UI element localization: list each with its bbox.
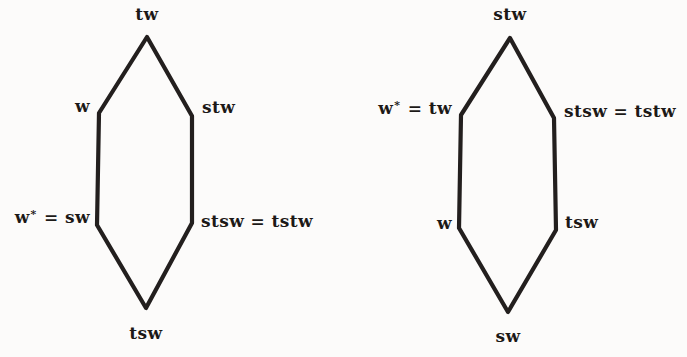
hexagon-diagram-svg xyxy=(0,0,687,357)
right-hexagon-label-top: stw xyxy=(493,6,526,23)
left-hexagon-label-top: tw xyxy=(135,6,158,23)
left-hexagon-outline xyxy=(97,37,192,308)
left-hexagon-label-lower-left: w∗ = sw xyxy=(15,209,90,226)
right-hexagon-label-bottom: sw xyxy=(495,328,520,345)
left-hexagon-label-lower-right: stsw = tstw xyxy=(201,213,313,230)
diagram-canvas: tw w stw w∗ = sw stsw = tstw tsw stw w∗ … xyxy=(0,0,687,357)
right-hexagon-label-lower-left: w xyxy=(437,215,452,232)
right-hexagon-label-lower-right: tsw xyxy=(565,214,598,231)
left-hexagon-label-bottom: tsw xyxy=(129,325,162,342)
right-hexagon-outline xyxy=(459,38,556,312)
right-hexagon-label-upper-left: w∗ = tw xyxy=(378,100,452,117)
left-hexagon-label-upper-left: w xyxy=(75,98,90,115)
left-hexagon-label-upper-right: stw xyxy=(202,99,235,116)
right-hexagon-label-upper-right: stsw = tstw xyxy=(564,103,676,120)
